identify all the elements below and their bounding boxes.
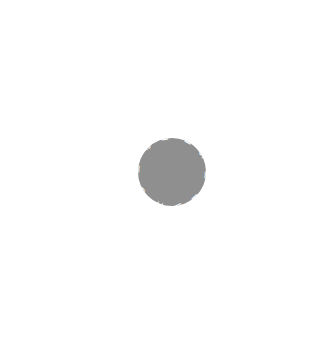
petal-label: Social interaction (197, 110, 274, 161)
petal-label: Reduced stress level (42, 155, 141, 174)
petal-label: Well-being (172, 203, 192, 254)
benefits-flower-diagram: Growth and healingReduced fearSocial int… (0, 0, 327, 347)
petal-label: Interpret emotions (203, 169, 292, 188)
petal-label: Recognition and bonding (189, 192, 276, 287)
petal-label: Growth and healing (145, 48, 172, 142)
flower-svg: Growth and healingReduced fearSocial int… (0, 0, 327, 347)
petal-label: Calm and trust (128, 199, 165, 269)
petal-label: Reduced fear (182, 85, 221, 146)
petal-label: Lowered pulse and blood pressure (35, 26, 154, 153)
petal-label: Reduced pain (86, 183, 148, 225)
